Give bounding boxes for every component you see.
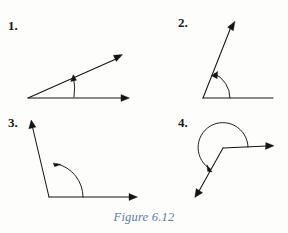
problem-3-number-label: 3. — [8, 116, 18, 129]
problem-3-diagram — [29, 120, 138, 200]
problem-1-horizontal-ray-arrowhead — [121, 95, 130, 102]
problem-4-lower-left-ray-arrowhead — [195, 189, 203, 198]
problem-3-angle-arc — [57, 164, 83, 197]
problem-2-diagonal-ray-arrowhead — [228, 21, 235, 31]
problem-3-upper-ray — [33, 127, 50, 197]
problem-2-diagram — [203, 21, 273, 98]
problem-4-horizontal-ray — [223, 146, 267, 148]
problem-1-angle-arc — [74, 78, 75, 97]
problem-2-angle-arc-arrowhead — [212, 71, 218, 79]
problem-1-number-label: 1. — [8, 19, 18, 32]
figure-caption: Figure 6.12 — [0, 210, 288, 225]
problem-2-number-label: 2. — [178, 16, 188, 29]
problem-1-diagram — [28, 55, 130, 102]
problem-2-diagonal-ray — [203, 27, 231, 98]
figure-container: 1. 2. 3. 4. Figure 6.12 — [0, 0, 288, 233]
problem-3-upper-ray-arrowhead — [29, 120, 36, 129]
problem-1-diagonal-ray-arrowhead — [113, 55, 122, 62]
angles-diagram-canvas — [0, 0, 288, 233]
problem-4-number-label: 4. — [178, 116, 188, 129]
problem-4-diagram — [195, 123, 274, 198]
problem-3-horizontal-ray-arrowhead — [129, 194, 138, 201]
problem-4-horizontal-ray-arrowhead — [266, 143, 275, 150]
problem-4-reflex-arc — [198, 123, 248, 170]
problem-1-angle-arc-arrowhead — [71, 75, 77, 82]
